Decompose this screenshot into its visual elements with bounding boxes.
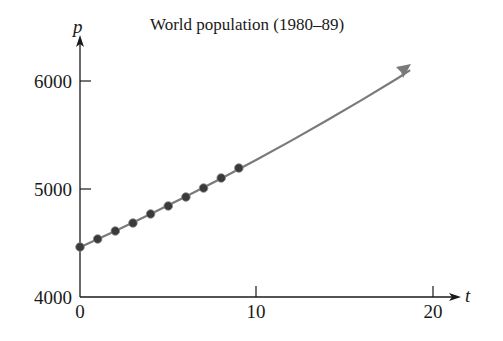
chart-title: World population (1980–89)	[150, 15, 344, 34]
data-points	[76, 164, 243, 252]
data-point	[76, 243, 85, 252]
data-point	[129, 219, 138, 228]
x-tick-10: 10	[247, 301, 266, 322]
data-point	[93, 235, 102, 244]
chart: World population (1980–89) p 6000 5000 4…	[0, 0, 503, 341]
data-point	[182, 193, 191, 202]
data-point	[146, 210, 155, 219]
x-axis: t 0 10 20	[75, 285, 471, 322]
data-point	[235, 164, 244, 173]
x-tick-20: 20	[424, 301, 443, 322]
y-axis: p 6000 5000 4000	[34, 16, 91, 308]
data-point	[217, 174, 226, 183]
x-tick-0: 0	[75, 301, 85, 322]
y-tick-6000: 6000	[34, 71, 72, 92]
data-point	[111, 227, 120, 236]
data-point	[164, 202, 173, 211]
y-tick-4000: 4000	[34, 287, 72, 308]
y-tick-5000: 5000	[34, 179, 72, 200]
data-point	[199, 184, 208, 193]
x-axis-label: t	[465, 285, 471, 306]
y-axis-label: p	[71, 16, 83, 37]
